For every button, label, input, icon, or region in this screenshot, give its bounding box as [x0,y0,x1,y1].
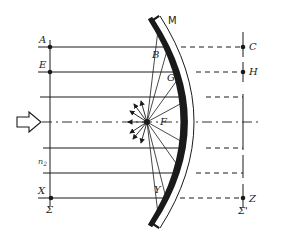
label-b: B [151,49,159,60]
label-sigma-prime: Σ' [237,205,248,216]
incident-rays [38,47,193,198]
label-z: Z [248,193,257,204]
label-e: E [38,59,47,70]
label-sigma: Σ [45,204,54,215]
label-mirror: M [168,15,177,26]
label-x: X [37,185,46,196]
label-medium: n2 [38,157,47,167]
label-a: A [38,34,46,45]
focus-point [144,119,150,125]
concave-mirror-diagram: A E X Σ n2 M B G Y F C H Z Σ' [0,0,282,238]
label-c: C [249,41,257,52]
label-h: H [248,66,258,77]
incident-beam-arrow-icon [17,112,41,132]
label-y: Y [154,184,162,195]
label-f: F [159,116,168,127]
label-g: G [167,72,175,83]
